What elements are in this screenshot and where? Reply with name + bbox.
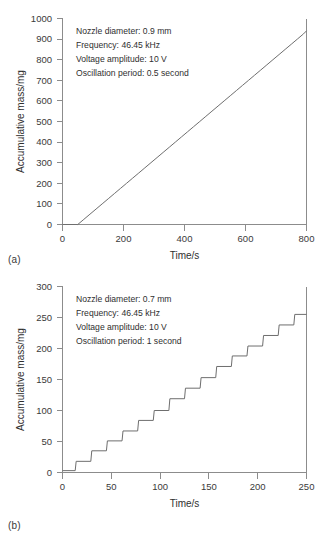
chart-a-ytick-600: 600 [36, 95, 52, 106]
chart-a-xtick-600: 600 [238, 233, 254, 244]
chart-b-ytick-200: 200 [36, 343, 52, 354]
chart-b-annotation-nozzle-diameter: Nozzle diameter: 0.7 mm [76, 294, 172, 304]
chart-b-ytick-250: 250 [36, 312, 52, 323]
chart-a-ytick-800: 800 [36, 54, 52, 65]
chart-b-xtick-50: 50 [106, 481, 117, 492]
chart-b-ytick-100: 100 [36, 405, 52, 416]
chart-b-annotation-block: Nozzle diameter: 0.7 mm Frequency: 46.45… [76, 294, 182, 346]
chart-b-ytick-0: 0 [47, 467, 52, 478]
chart-a-x-axis-title: Time/s [170, 250, 200, 261]
chart-a-annotation-voltage-amplitude: Voltage amplitude: 10 V [76, 54, 167, 64]
chart-b-xtick-0: 0 [60, 481, 65, 492]
chart-a-ytick-0: 0 [47, 219, 52, 230]
chart-b-annotation-voltage-amplitude: Voltage amplitude: 10 V [76, 322, 167, 332]
chart-a-ytick-100: 100 [36, 198, 52, 209]
chart-panel-a: 0 100 200 300 400 500 600 700 800 900 10… [0, 0, 330, 267]
chart-b-xtick-150: 150 [201, 481, 217, 492]
chart-a-ytick-200: 200 [36, 178, 52, 189]
figure-container: 0 100 200 300 400 500 600 700 800 900 10… [0, 0, 330, 535]
chart-a-y-axis-title: Accumulative mass/mg [15, 70, 26, 173]
chart-b-y-ticks [57, 287, 63, 473]
chart-a-annotation-oscillation-period: Oscillation period: 0.5 second [76, 68, 189, 78]
chart-a-annotation-block: Nozzle diameter: 0.9 mm Frequency: 46.45… [76, 26, 189, 78]
chart-b-y-axis-title: Accumulative mass/mg [15, 328, 26, 431]
chart-b-annotation-oscillation-period: Oscillation period: 1 second [76, 336, 182, 346]
chart-b-ytick-150: 150 [36, 374, 52, 385]
chart-b-xtick-250: 250 [299, 481, 315, 492]
chart-b-y-tick-labels: 0 50 100 150 200 250 300 [36, 281, 52, 478]
chart-b-ytick-300: 300 [36, 281, 52, 292]
chart-a-x-tick-labels: 0 200 400 600 800 [60, 233, 315, 244]
chart-b-ytick-50: 50 [41, 436, 52, 447]
chart-a-ytick-400: 400 [36, 136, 52, 147]
chart-a-x-ticks [63, 225, 307, 231]
panel-label-a: (a) [8, 254, 21, 265]
chart-a-y-ticks [57, 19, 63, 225]
chart-b-svg: 0 50 100 150 200 250 300 0 50 100 [0, 266, 330, 535]
chart-b-x-ticks [63, 473, 307, 479]
chart-a-ytick-700: 700 [36, 75, 52, 86]
chart-a-ytick-900: 900 [36, 33, 52, 44]
chart-b-xtick-100: 100 [152, 481, 168, 492]
chart-a-annotation-nozzle-diameter: Nozzle diameter: 0.9 mm [76, 26, 172, 36]
chart-a-ytick-1000: 1000 [31, 13, 52, 24]
chart-a-ytick-300: 300 [36, 157, 52, 168]
chart-a-svg: 0 100 200 300 400 500 600 700 800 900 10… [0, 0, 330, 267]
chart-panel-b: 0 50 100 150 200 250 300 0 50 100 [0, 266, 330, 533]
chart-a-xtick-400: 400 [177, 233, 193, 244]
panel-label-b: (b) [8, 520, 21, 531]
chart-b-x-tick-labels: 0 50 100 150 200 250 [60, 481, 315, 492]
chart-a-xtick-0: 0 [60, 233, 65, 244]
chart-b-annotation-frequency: Frequency: 46.45 kHz [76, 308, 160, 318]
chart-b-xtick-200: 200 [250, 481, 266, 492]
chart-b-x-axis-title: Time/s [170, 498, 200, 509]
chart-a-ytick-500: 500 [36, 116, 52, 127]
chart-a-xtick-800: 800 [299, 233, 315, 244]
chart-a-annotation-frequency: Frequency: 46.45 kHz [76, 40, 160, 50]
chart-a-xtick-200: 200 [116, 233, 132, 244]
chart-a-y-tick-labels: 0 100 200 300 400 500 600 700 800 900 10… [31, 13, 52, 230]
